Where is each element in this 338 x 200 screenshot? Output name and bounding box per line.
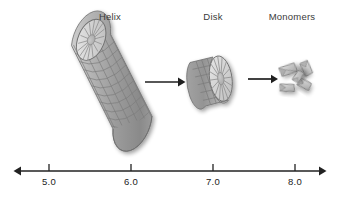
helix-structure <box>71 11 152 151</box>
axis-arrow-left <box>14 167 22 176</box>
monomers-group <box>278 60 313 93</box>
arrow-disk-to-monomers <box>248 75 278 83</box>
monomer-unit <box>279 82 296 93</box>
arrow-helix-to-disk <box>145 78 186 87</box>
axis-tick-label-8: 8.0 <box>288 176 302 188</box>
axis-arrow-right <box>319 167 327 176</box>
disk-structure <box>187 54 235 109</box>
state-label-monomers: Monomers <box>269 11 315 23</box>
state-label-helix: Helix <box>99 11 121 23</box>
diagram-canvas <box>0 0 338 200</box>
axis-tick-label-6: 6.0 <box>124 176 138 188</box>
assembly-state-diagram: Helix Disk Monomers 5.0 6.0 7.0 8.0 <box>0 0 338 200</box>
ph-axis <box>14 164 327 175</box>
axis-tick-label-7: 7.0 <box>206 176 220 188</box>
state-label-disk: Disk <box>203 11 222 23</box>
axis-tick-label-5: 5.0 <box>42 176 56 188</box>
axis-ticks <box>49 164 295 171</box>
